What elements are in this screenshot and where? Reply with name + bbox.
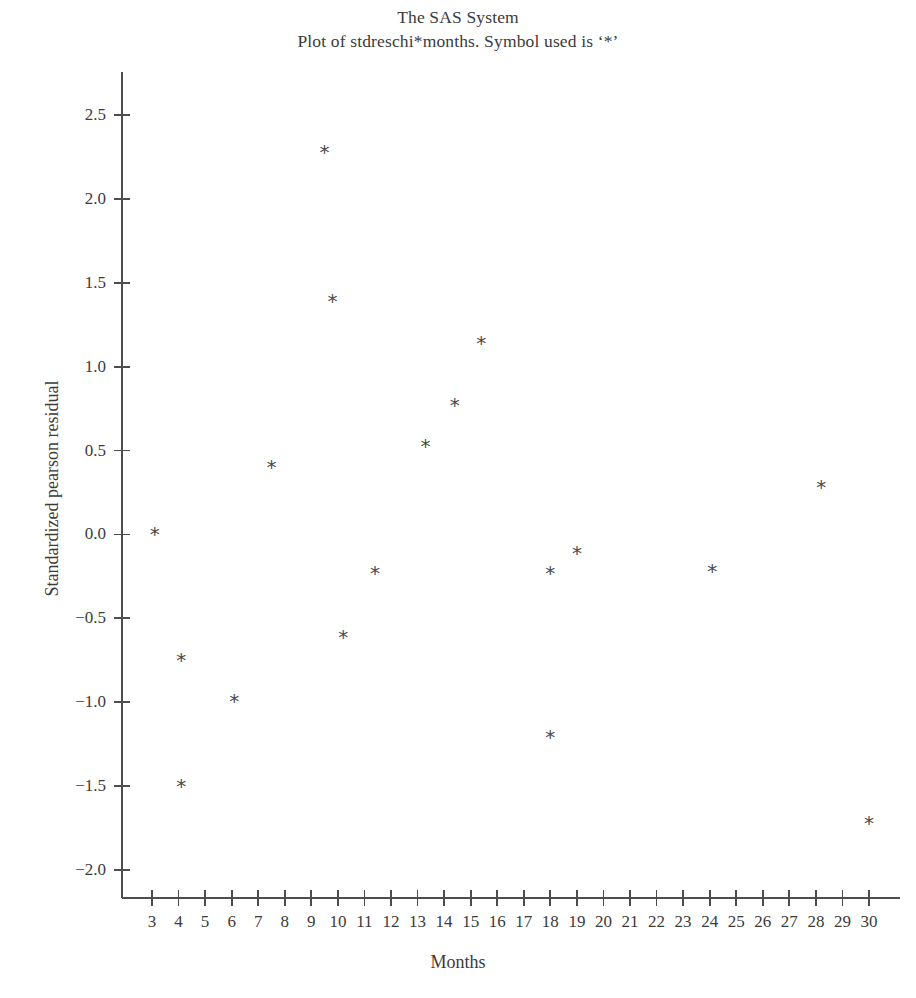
y-tick-label: 2.0 xyxy=(46,189,106,209)
y-tick-label: 1.5 xyxy=(46,273,106,293)
data-point-marker: * xyxy=(816,477,826,497)
data-point-marker: * xyxy=(476,333,486,353)
axis-lines xyxy=(0,0,916,998)
x-tick-label: 30 xyxy=(852,912,886,932)
data-point-marker: * xyxy=(370,563,380,583)
data-point-marker: * xyxy=(707,561,717,581)
data-point-marker: * xyxy=(320,142,330,162)
data-point-marker: * xyxy=(150,524,160,544)
data-point-marker: * xyxy=(545,727,555,747)
data-point-marker: * xyxy=(864,813,874,833)
y-tick-label: −1.0 xyxy=(46,692,106,712)
data-point-marker: * xyxy=(176,650,186,670)
data-point-marker: * xyxy=(450,395,460,415)
y-tick-label: 2.5 xyxy=(46,105,106,125)
x-axis-title: Months xyxy=(0,952,916,973)
scatter-plot: 2.52.01.51.00.50.0−0.5−1.0−1.5−2.0 34567… xyxy=(0,0,916,998)
y-tick-label: −1.5 xyxy=(46,776,106,796)
data-point-marker: * xyxy=(421,436,431,456)
data-point-marker: * xyxy=(545,563,555,583)
data-point-marker: * xyxy=(328,291,338,311)
data-point-marker: * xyxy=(338,627,348,647)
data-point-marker: * xyxy=(176,776,186,796)
y-axis-title: Standardized pearson residual xyxy=(42,324,63,654)
y-tick-label: −2.0 xyxy=(46,860,106,880)
data-point-marker: * xyxy=(572,543,582,563)
data-point-marker: * xyxy=(229,691,239,711)
data-point-marker: * xyxy=(267,457,277,477)
